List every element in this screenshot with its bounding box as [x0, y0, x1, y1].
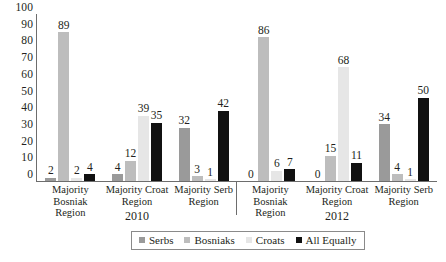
bar[interactable]	[125, 161, 136, 181]
bar-wrapper: 11	[351, 14, 362, 181]
bar-wrapper: 68	[338, 14, 349, 181]
bar[interactable]	[418, 98, 429, 182]
y-axis-tick-90: 90	[0, 19, 33, 31]
bar[interactable]	[151, 123, 162, 181]
bar[interactable]	[179, 128, 190, 181]
bar[interactable]	[138, 116, 149, 181]
bar-value-label: 7	[287, 157, 293, 169]
legend-swatch-icon	[246, 237, 252, 243]
bar[interactable]	[84, 174, 95, 181]
bar[interactable]	[392, 174, 403, 181]
bar-wrapper: 1	[205, 14, 216, 181]
category-label-line: Majority	[238, 184, 303, 196]
bar[interactable]	[112, 174, 123, 181]
legend-item[interactable]: Serbs	[139, 234, 173, 246]
category-label-line: Region	[305, 196, 370, 208]
bar-wrapper: 4	[112, 14, 123, 181]
bar-wrapper: 86	[258, 14, 269, 181]
bar-value-label: 4	[87, 162, 93, 174]
y-axis-tick-0: 0	[0, 169, 33, 181]
bar[interactable]	[45, 178, 56, 181]
legend-label: Croats	[256, 234, 285, 246]
bar-group: 08667	[237, 14, 304, 181]
bar-wrapper: 39	[138, 14, 149, 181]
bar-wrapper: 12	[125, 14, 136, 181]
bar-value-label: 12	[125, 148, 137, 160]
legend-label: Serbs	[149, 234, 173, 246]
bar-group: 323142	[170, 14, 237, 181]
bar-group: 4123935	[104, 14, 171, 181]
category-label-line: Region	[105, 196, 170, 208]
bar-group: 0156811	[304, 14, 371, 181]
bar-wrapper: 7	[284, 14, 295, 181]
bar-value-label: 89	[58, 20, 70, 32]
bar[interactable]	[405, 179, 416, 181]
legend-item[interactable]: Bosniaks	[184, 234, 234, 246]
legend: SerbsBosniaksCroatsAll Equally	[131, 231, 365, 250]
category-label-line: Majority Serb	[171, 184, 236, 196]
bar[interactable]	[218, 111, 229, 181]
y-axis-tick-20: 20	[0, 136, 33, 148]
bar-wrapper: 2	[71, 14, 82, 181]
y-axis-tick-30: 30	[0, 119, 33, 131]
bar[interactable]	[284, 169, 295, 181]
bar-value-label: 3	[194, 164, 200, 176]
y-axis-tick-60: 60	[0, 69, 33, 81]
legend-item[interactable]: Croats	[246, 234, 285, 246]
y-axis: 1009080706050403020100	[0, 8, 33, 175]
bar-wrapper: 1	[405, 14, 416, 181]
y-axis-tick-100: 100	[0, 2, 33, 14]
bar[interactable]	[258, 37, 269, 181]
bar-groups: 289244123935323142086670156811344150	[37, 14, 437, 181]
y-axis-tick-70: 70	[0, 52, 33, 64]
category-label-line: Region	[371, 196, 436, 208]
bar[interactable]	[325, 156, 336, 181]
bar[interactable]	[205, 179, 216, 181]
bar-value-label: 50	[417, 85, 429, 97]
bar[interactable]	[58, 32, 69, 181]
category-label-line: Majority Serb	[371, 184, 436, 196]
category-label-line: Region	[171, 196, 236, 208]
bar[interactable]	[379, 124, 390, 181]
bar[interactable]	[71, 178, 82, 181]
bar-value-label: 2	[48, 165, 54, 177]
bar-value-label: 42	[217, 98, 229, 110]
bar-wrapper: 35	[151, 14, 162, 181]
bar-wrapper: 0	[245, 14, 256, 181]
panel-year-label: 2012	[237, 210, 437, 223]
bar-value-label: 32	[178, 115, 190, 127]
bar[interactable]	[192, 176, 203, 181]
y-axis-tick-80: 80	[0, 36, 33, 48]
legend-label: Bosniaks	[194, 234, 234, 246]
bar[interactable]	[351, 163, 362, 181]
bar-value-label: 39	[138, 103, 150, 115]
bar-value-label: 0	[315, 169, 321, 181]
bar-wrapper: 34	[379, 14, 390, 181]
legend-swatch-icon	[296, 237, 302, 243]
bar[interactable]	[338, 67, 349, 181]
bar-value-label: 86	[258, 25, 270, 37]
bar-value-label: 68	[338, 55, 350, 67]
bar-group: 344150	[370, 14, 437, 181]
bar-value-label: 0	[248, 169, 254, 181]
y-axis-tick-10: 10	[0, 153, 33, 165]
bar-wrapper: 6	[271, 14, 282, 181]
bar[interactable]	[271, 171, 282, 181]
bar-value-label: 1	[207, 167, 213, 179]
legend-swatch-icon	[184, 237, 190, 243]
legend-label: All Equally	[306, 234, 357, 246]
bar-value-label: 4	[115, 162, 121, 174]
bar-value-label: 35	[151, 110, 163, 122]
bar-wrapper: 0	[312, 14, 323, 181]
bar-group: 28924	[37, 14, 104, 181]
bar-wrapper: 89	[58, 14, 69, 181]
legend-swatch-icon	[139, 237, 145, 243]
bar-value-label: 4	[394, 162, 400, 174]
bar-wrapper: 50	[418, 14, 429, 181]
bar-value-label: 15	[325, 143, 337, 155]
panel-year-labels: 20102012	[37, 210, 437, 223]
bar-wrapper: 4	[392, 14, 403, 181]
bar-chart: 1009080706050403020100 28924412393532314…	[0, 0, 446, 262]
bar-wrapper: 2	[45, 14, 56, 181]
legend-item[interactable]: All Equally	[296, 234, 357, 246]
